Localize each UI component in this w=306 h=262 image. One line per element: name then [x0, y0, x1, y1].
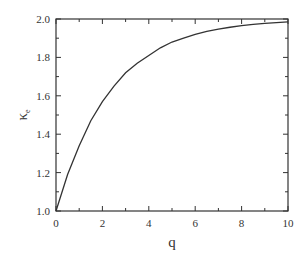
major-ticks [56, 19, 288, 211]
y-tick-label: 1.6 [36, 90, 50, 102]
y-tick-label: 1.8 [36, 51, 50, 63]
x-tick-label: 2 [100, 217, 106, 229]
x-tick-label: 0 [53, 217, 59, 229]
minor-ticks [56, 19, 288, 211]
y-tick-label: 1.0 [36, 205, 50, 217]
y-tick-label: 1.2 [36, 167, 50, 179]
chart: 0246810 1.01.21.41.61.82.0 q κe [0, 0, 306, 262]
x-tick-label: 6 [192, 217, 198, 229]
x-axis-label: q [168, 234, 176, 250]
y-axis-label-subscript: e [23, 109, 32, 113]
svg-text:κe: κe [14, 109, 32, 121]
plot-frame [56, 19, 288, 211]
y-tick-labels: 1.01.21.41.61.82.0 [36, 13, 50, 217]
y-axis-label: κe [14, 109, 32, 121]
x-tick-label: 4 [146, 217, 152, 229]
y-tick-label: 1.4 [36, 128, 50, 140]
data-line [56, 22, 288, 211]
y-tick-label: 2.0 [36, 13, 50, 25]
x-tick-label: 8 [239, 217, 245, 229]
x-tick-label: 10 [283, 217, 295, 229]
x-tick-labels: 0246810 [53, 217, 294, 229]
